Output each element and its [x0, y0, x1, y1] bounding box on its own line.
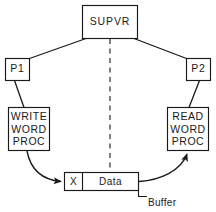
- node-process-right[interactable]: P2: [187, 59, 211, 81]
- edge-write-proc-to-buffer: [27, 151, 61, 182]
- node-read-word-proc[interactable]: READ WORD PROC: [168, 108, 209, 151]
- read-proc-label-line2: WORD: [170, 123, 205, 135]
- edge-p2-to-read-proc: [189, 81, 200, 108]
- edge-supervisor-to-p1: [30, 39, 87, 59]
- read-proc-label-line1: READ: [172, 110, 203, 122]
- p2-label: P2: [191, 62, 206, 74]
- buffer-data-cell-label: Data: [99, 176, 122, 187]
- buffer-annotation-leader: [139, 191, 148, 197]
- node-write-word-proc[interactable]: WRITE WORD PROC: [9, 108, 50, 151]
- edge-buffer-to-read-proc: [139, 154, 187, 182]
- supervisor-label: SUPVR: [90, 15, 131, 27]
- buffer-annotation-label: Buffer: [148, 197, 177, 208]
- diagram-canvas: SUPVR P1 P2 WRITE WORD PROC READ WORD PR…: [0, 0, 216, 212]
- write-proc-label-line1: WRITE: [11, 110, 48, 122]
- write-proc-label-line3: PROC: [13, 135, 46, 147]
- node-supervisor[interactable]: SUPVR: [83, 6, 138, 39]
- node-buffer[interactable]: X Data: [65, 173, 139, 191]
- read-proc-label-line3: PROC: [172, 135, 205, 147]
- diagram-svg: SUPVR P1 P2 WRITE WORD PROC READ WORD PR…: [0, 0, 216, 212]
- edge-p1-to-write-proc: [15, 81, 25, 108]
- node-process-left[interactable]: P1: [6, 59, 30, 81]
- p1-label: P1: [10, 62, 25, 74]
- write-proc-label-line2: WORD: [11, 123, 46, 135]
- buffer-flag-cell-label: X: [70, 176, 77, 187]
- edge-supervisor-to-p2: [134, 39, 187, 59]
